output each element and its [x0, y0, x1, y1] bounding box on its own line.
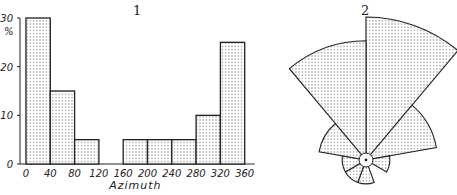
- x-axis-label: Azimuth: [108, 179, 161, 192]
- y-tick-label: 30: [0, 13, 13, 24]
- histogram-bar: [50, 91, 74, 164]
- x-tick-label: 120: [89, 168, 108, 179]
- y-tick-label: 20: [0, 62, 13, 73]
- histogram-bar: [26, 18, 50, 164]
- x-tick-label: 80: [68, 168, 81, 179]
- histogram-bar: [148, 140, 172, 164]
- histogram-chart: 0102030%04080120160200240280320360Azimut…: [0, 13, 254, 192]
- histogram-bar: [123, 140, 147, 164]
- x-tick-label: 320: [211, 168, 230, 179]
- x-tick-label: 0: [23, 168, 29, 179]
- y-tick-label: 0: [7, 159, 13, 170]
- histogram-bar: [172, 140, 196, 164]
- panel-label-2: 2: [361, 3, 369, 18]
- rose-diagram: [289, 17, 457, 184]
- panel-label-1: 1: [133, 3, 141, 18]
- histogram-bar: [196, 115, 220, 164]
- histogram-bar: [75, 140, 99, 164]
- y-tick-label: 10: [0, 110, 13, 121]
- x-tick-label: 240: [162, 168, 181, 179]
- x-tick-label: 280: [187, 168, 206, 179]
- x-tick-label: 40: [44, 168, 57, 179]
- x-tick-label: 160: [114, 168, 133, 179]
- x-tick-label: 360: [235, 168, 254, 179]
- figure-canvas: 0102030%04080120160200240280320360Azimut…: [0, 0, 457, 195]
- y-axis-label: %: [4, 26, 14, 37]
- x-tick-label: 200: [138, 168, 157, 179]
- histogram-bar: [220, 42, 244, 164]
